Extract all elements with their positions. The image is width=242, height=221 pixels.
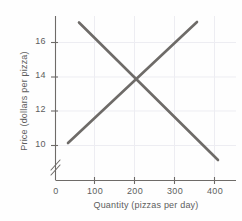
x-tick-label-200: 200 (120, 186, 150, 196)
supply-demand-chart: 16 14 12 10 0 100 200 300 400 Price (dol… (0, 0, 242, 221)
y-tick-marks (51, 43, 58, 146)
x-axis-title: Quantity (pizzas per day) (56, 200, 236, 210)
y-axis-title: Price (dollars per pizza) (19, 31, 29, 171)
x-tick-label-300: 300 (160, 186, 190, 196)
supply-curve (68, 22, 197, 143)
x-tick-label-0: 0 (41, 186, 71, 196)
x-tick-label-400: 400 (200, 186, 230, 196)
demand-curve (79, 23, 218, 161)
x-tick-label-100: 100 (80, 186, 110, 196)
